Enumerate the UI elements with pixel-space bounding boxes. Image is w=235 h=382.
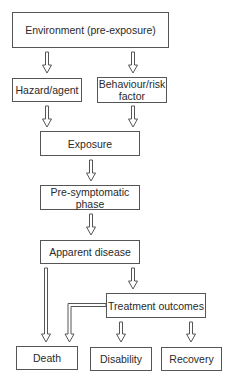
node-treatment-outcomes: Treatment outcomes xyxy=(106,293,206,318)
node-label: Hazard/agent xyxy=(15,84,78,96)
arrow-treatment-disability xyxy=(117,322,126,342)
node-recovery: Recovery xyxy=(161,347,222,371)
node-label: Apparent disease xyxy=(49,246,131,258)
node-label: Exposure xyxy=(68,138,112,150)
node-behaviour: Behaviour/risk factor xyxy=(97,77,167,103)
node-environment: Environment (pre-exposure) xyxy=(12,12,169,48)
node-apparent-disease: Apparent disease xyxy=(40,240,140,264)
arrow-presym-apparent xyxy=(87,214,96,235)
arrow-treatment-recovery xyxy=(187,322,196,342)
arrow-env-behaviour xyxy=(129,52,138,73)
node-label: Disability xyxy=(100,353,142,365)
node-label: Treatment outcomes xyxy=(108,300,204,312)
arrow-treatment-death xyxy=(65,304,106,343)
arrow-apparent-treatment xyxy=(129,268,138,289)
arrow-exposure-presym xyxy=(87,160,96,181)
arrow-behaviour-exposure xyxy=(129,106,138,127)
node-label: Behaviour/risk factor xyxy=(98,78,166,102)
arrow-apparent-death xyxy=(42,268,51,342)
node-label: Recovery xyxy=(169,353,213,365)
node-label: Environment (pre-exposure) xyxy=(25,24,156,36)
node-label: Pre-symptomatic phase xyxy=(48,186,132,210)
node-hazard: Hazard/agent xyxy=(12,78,82,102)
node-label: Death xyxy=(33,352,61,364)
arrow-env-hazard xyxy=(43,52,52,73)
arrow-hazard-exposure xyxy=(43,106,52,127)
node-death: Death xyxy=(16,346,78,370)
node-presymptomatic: Pre-symptomatic phase xyxy=(40,185,140,210)
node-exposure: Exposure xyxy=(40,131,140,156)
node-disability: Disability xyxy=(90,347,152,371)
